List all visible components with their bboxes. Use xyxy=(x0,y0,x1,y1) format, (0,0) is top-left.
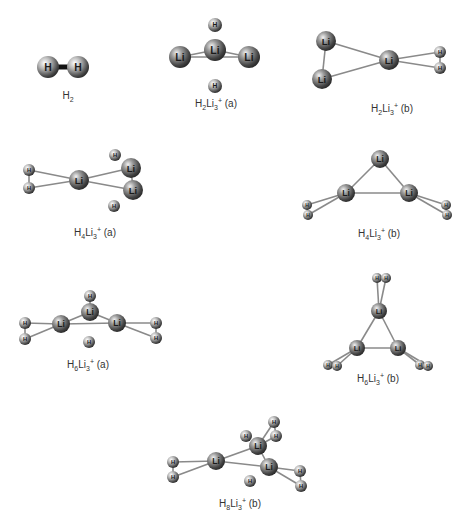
lithium-atom: Li xyxy=(312,69,332,89)
hydrogen-atom: H xyxy=(268,416,280,428)
structure-atoms: HLiLiLiH xyxy=(169,18,260,93)
lithium-atom: Li xyxy=(249,437,267,455)
atom-label: H xyxy=(418,362,422,368)
structure-caption: H4Li3+ (a) xyxy=(74,227,116,238)
lithium-atom: Li xyxy=(260,458,278,476)
molecular-structures-figure: HHHLiLiLiHLiLiLiHHHHLiHLiLiHLiLiLiHHHHHL… xyxy=(0,0,469,526)
hydrogen-atom: H xyxy=(442,210,452,220)
atom-label: H xyxy=(154,335,158,341)
structure-atoms: HLiHHLiLiHHH xyxy=(19,290,162,348)
hydrogen-atom: H xyxy=(23,182,35,194)
hydrogen-atom: H xyxy=(167,456,179,468)
atom-label: Li xyxy=(405,188,413,198)
atom-label: H xyxy=(113,152,117,158)
caption-base2: Li xyxy=(85,227,93,238)
hydrogen-atom: H xyxy=(37,56,59,78)
caption-sub2: 3 xyxy=(93,233,97,240)
hydrogen-atom: H xyxy=(67,56,89,78)
atom-label: Li xyxy=(376,307,383,316)
structure-caption: H8Li3+ (b) xyxy=(219,498,261,509)
hydrogen-atom: H xyxy=(109,149,121,161)
hydrogen-atom: H xyxy=(150,317,162,329)
lithium-atom: Li xyxy=(121,158,141,178)
atom-label: H xyxy=(298,468,302,474)
structure-atoms: LiLiLiHH xyxy=(312,31,446,89)
atom-label: Li xyxy=(322,36,330,47)
atom-label: H xyxy=(213,82,218,89)
lithium-atom: Li xyxy=(379,50,399,70)
atom-label: H xyxy=(438,49,442,55)
atom-label: H xyxy=(23,336,27,342)
atom-label: H xyxy=(274,433,278,439)
caption-sub2: 3 xyxy=(86,365,90,372)
atom-label: H xyxy=(171,474,175,480)
lithium-atom: Li xyxy=(207,452,225,470)
atom-label: H xyxy=(74,62,82,73)
atom-label: H xyxy=(272,419,276,425)
lithium-atom: Li xyxy=(108,314,126,332)
hydrogen-atom: H xyxy=(208,18,222,32)
atom-label: Li xyxy=(127,163,135,174)
atom-label: H xyxy=(299,483,303,489)
atom-label: Li xyxy=(129,185,137,196)
atom-label: Li xyxy=(175,52,184,63)
hydrogen-atom: H xyxy=(19,333,31,345)
lithium-atom: Li xyxy=(238,46,260,68)
hydrogen-atom: H xyxy=(150,332,162,344)
caption-suffix: (b) xyxy=(398,103,413,114)
hydrogen-atom: H xyxy=(83,336,95,348)
caption-sub2: 3 xyxy=(238,504,242,511)
structure-bonds xyxy=(173,422,301,486)
atom-label: Li xyxy=(210,45,219,56)
atom-label: Li xyxy=(395,344,402,353)
atom-label: H xyxy=(384,275,388,281)
hydrogen-atom: H xyxy=(167,471,179,483)
atom-label: Li xyxy=(318,74,326,85)
structure-caption: H6Li3+ (a) xyxy=(67,359,109,370)
atom-label: H xyxy=(375,275,379,281)
atom-label: Li xyxy=(254,441,262,451)
lithium-atom: Li xyxy=(400,184,418,202)
caption-suffix: (b) xyxy=(385,228,400,239)
lithium-atom: Li xyxy=(371,150,389,168)
structure-bonds xyxy=(328,278,428,366)
hydrogen-atom: H xyxy=(240,430,252,442)
atom-label: H xyxy=(154,320,158,326)
caption-base2: Li xyxy=(368,373,376,384)
hydrogen-atom: H xyxy=(19,317,31,329)
atom-label: H xyxy=(445,212,449,218)
lithium-atom: Li xyxy=(204,39,226,61)
atom-label: H xyxy=(306,212,310,218)
atom-label: H xyxy=(326,362,330,368)
hydrogen-atom: H xyxy=(332,361,342,371)
hydrogen-atom: H xyxy=(208,79,222,93)
atom-label: Li xyxy=(212,456,220,466)
caption-suffix: (b) xyxy=(246,498,261,509)
caption-suffix: (a) xyxy=(94,359,109,370)
hydrogen-atom: H xyxy=(23,164,35,176)
structure-caption: H6Li3+ (b) xyxy=(357,373,399,384)
atom-label: H xyxy=(444,202,448,208)
hydrogen-atom: H xyxy=(372,273,382,283)
caption-suffix: (a) xyxy=(101,227,116,238)
caption-sub2: 3 xyxy=(390,109,394,116)
atom-label: Li xyxy=(57,319,65,329)
atom-label: Li xyxy=(265,462,273,472)
atom-label: Li xyxy=(86,307,94,317)
hydrogen-atom: H xyxy=(295,480,307,492)
atom-label: Li xyxy=(244,52,253,63)
atom-label: Li xyxy=(385,55,393,66)
atom-label: H xyxy=(213,21,218,28)
atoms-layer: HHHLiLiLiHLiLiLiHHHHLiHLiLiHLiLiLiHHHHHL… xyxy=(19,18,452,492)
structure-caption: H2Li3+ (b) xyxy=(371,103,413,114)
atom-label: H xyxy=(244,433,248,439)
hydrogen-atom: H xyxy=(270,430,282,442)
bond-line xyxy=(322,60,389,79)
atom-label: H xyxy=(27,167,31,173)
lithium-atom: Li xyxy=(123,180,143,200)
lithium-atom: Li xyxy=(169,46,191,68)
caption-base2: Li xyxy=(230,498,238,509)
caption-sub2: 3 xyxy=(377,234,381,241)
lithium-atom: Li xyxy=(81,303,99,321)
atom-label: H xyxy=(44,62,52,73)
